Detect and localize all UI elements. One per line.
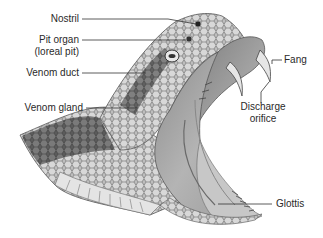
label-pit-organ-sub: (loreal pit) <box>10 46 79 58</box>
fang-leader <box>272 60 282 64</box>
label-glottis: Glottis <box>276 198 304 210</box>
label-venom-gland: Venom gland <box>5 102 83 114</box>
label-venom-duct: Venom duct <box>10 67 79 79</box>
label-pit-organ: Pit organ <box>10 34 79 46</box>
label-discharge-orifice: Discharge <box>236 101 290 113</box>
label-nostril: Nostril <box>10 13 79 25</box>
label-discharge-orifice-sub: orifice <box>236 113 290 125</box>
label-fang: Fang <box>284 54 307 66</box>
discharge-orifice-leader <box>261 82 269 103</box>
diagram-canvas: Nostril Pit organ (loreal pit) Venom duc… <box>0 0 323 238</box>
